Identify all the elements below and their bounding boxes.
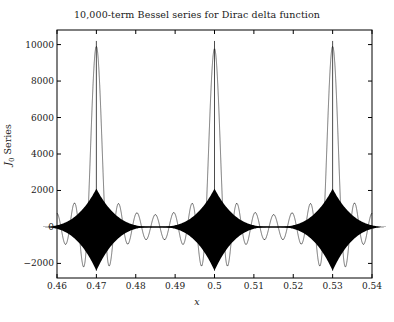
y-tick-label: 4000 (12, 149, 54, 159)
y-axis-label-symbol: J (2, 162, 13, 166)
y-tick-label: 6000 (12, 113, 54, 123)
plot-area-svg (0, 0, 394, 322)
y-tick-label: 8000 (12, 76, 54, 86)
x-tick-label: 0.54 (349, 281, 394, 291)
y-axis-label-text: Series (2, 124, 13, 157)
y-axis-label: J0 Series (2, 110, 16, 180)
x-axis-label: x (0, 296, 394, 307)
y-tick-label: 0 (12, 222, 54, 232)
figure-canvas: 10,000-term Bessel series for Dirac delt… (0, 0, 394, 322)
y-tick-label: −2000 (12, 258, 54, 268)
y-axis-label-subscript: 0 (8, 157, 16, 161)
y-tick-label: 2000 (12, 185, 54, 195)
y-tick-label: 10000 (12, 40, 54, 50)
